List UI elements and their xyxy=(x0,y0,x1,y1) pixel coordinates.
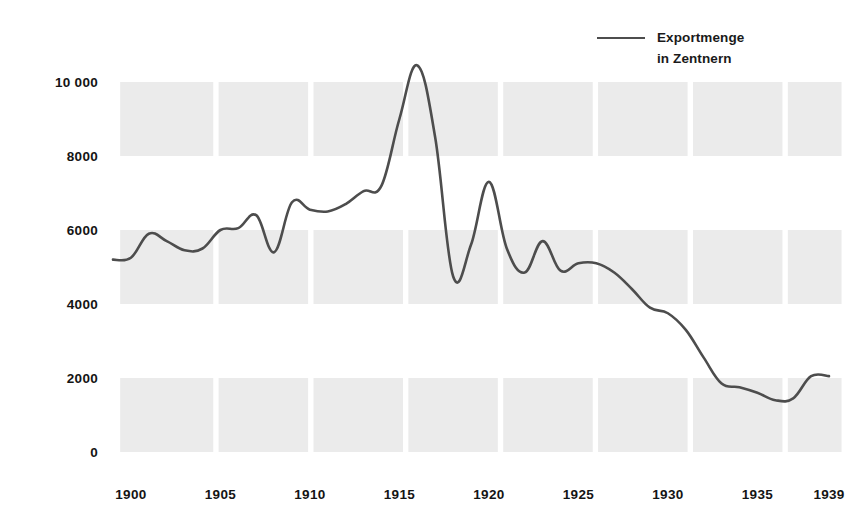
x-tick-label: 1920 xyxy=(473,487,504,502)
x-tick-label: 1915 xyxy=(384,487,415,502)
line-swatch-icon xyxy=(597,37,645,39)
x-tick-label: 1900 xyxy=(115,487,146,502)
x-axis: 190019051910191519201925193019351939 xyxy=(0,0,864,532)
x-tick-label: 1905 xyxy=(205,487,236,502)
x-tick-label: 1930 xyxy=(652,487,683,502)
legend-label-line1: Exportmenge xyxy=(657,28,744,49)
legend: Exportmenge in Zentnern xyxy=(597,28,744,70)
x-tick-label: 1939 xyxy=(813,487,844,502)
x-tick-label: 1925 xyxy=(563,487,594,502)
legend-label-line2: in Zentnern xyxy=(657,49,744,70)
chart-container: 10 00080006000400020000 1900190519101915… xyxy=(0,0,864,532)
x-tick-label: 1910 xyxy=(294,487,325,502)
x-tick-label: 1935 xyxy=(742,487,773,502)
legend-label: Exportmenge in Zentnern xyxy=(657,28,744,70)
